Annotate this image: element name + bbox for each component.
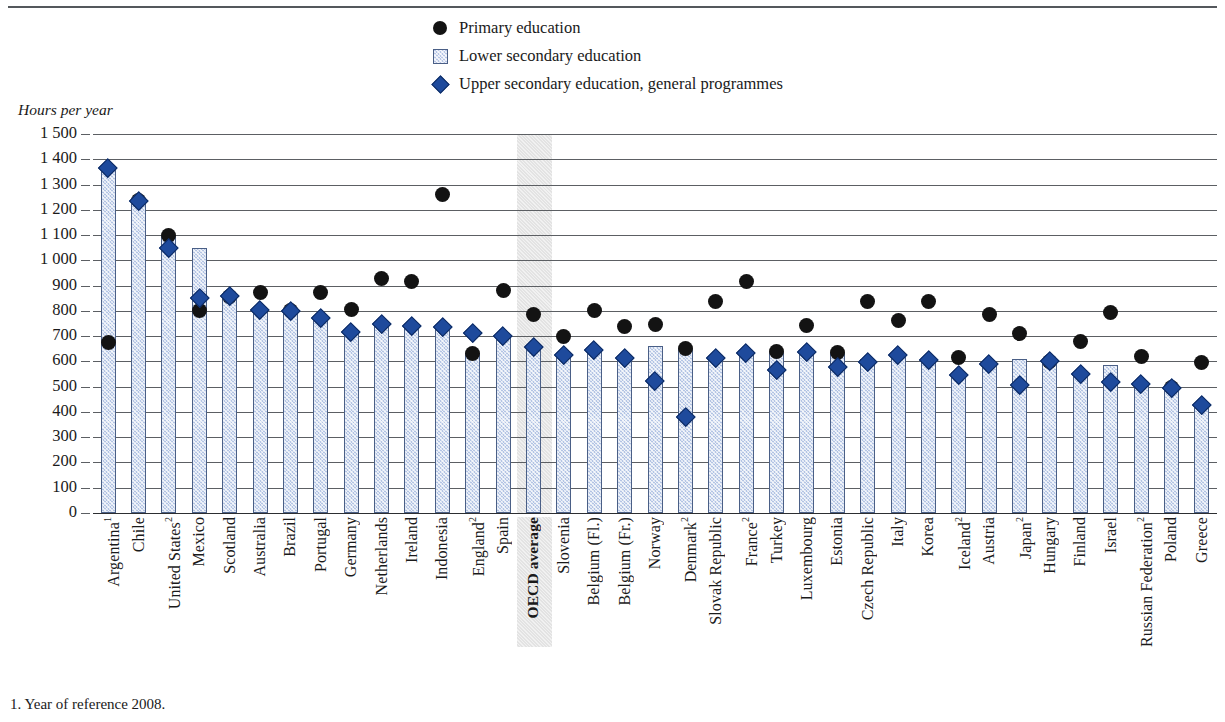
x-axis-label: Netherlands <box>374 517 390 595</box>
primary-education-point <box>435 187 450 202</box>
primary-education-point <box>860 294 875 309</box>
legend-item-upper-secondary: Upper secondary education, general progr… <box>430 74 783 94</box>
primary-education-point <box>313 285 328 300</box>
y-tick-mark <box>81 185 90 186</box>
bar <box>344 332 359 513</box>
y-tick-label: 600 <box>7 350 77 370</box>
x-axis-label: Czech Republic <box>860 517 876 620</box>
y-tick-label: 100 <box>7 477 77 497</box>
bar <box>496 336 511 513</box>
footnote: 1. Year of reference 2008. <box>10 696 165 713</box>
bar <box>313 316 328 513</box>
y-axis-title: Hours per year <box>18 101 113 119</box>
primary-education-point <box>253 285 268 300</box>
y-tick-mark <box>81 311 90 312</box>
y-tick-mark <box>81 210 90 211</box>
x-axis-label: Mexico <box>191 517 207 566</box>
x-axis-label: Belgium (Fl.) <box>586 517 602 605</box>
gridline-1400 <box>93 159 1217 160</box>
x-axis-label: Germany <box>343 517 359 577</box>
legend-item-lower-secondary: Lower secondary education <box>430 46 783 66</box>
primary-education-point <box>1134 349 1149 364</box>
y-tick-label: 700 <box>7 325 77 345</box>
y-tick-label: 800 <box>7 300 77 320</box>
x-axis-label: Belgium (Fr.) <box>617 517 633 605</box>
x-axis-label: England2 <box>465 517 487 576</box>
x-axis-label: Slovenia <box>556 517 572 574</box>
y-tick-label: 900 <box>7 275 77 295</box>
x-axis-label: Finland <box>1072 517 1088 567</box>
primary-education-point <box>404 274 419 289</box>
primary-education-point <box>617 319 632 334</box>
y-tick-mark <box>81 513 90 514</box>
bar <box>1073 373 1088 513</box>
bar <box>131 201 146 513</box>
primary-education-point <box>1012 326 1027 341</box>
x-axis-label: Scotland <box>222 517 238 574</box>
gridline-1000 <box>93 260 1217 261</box>
x-axis-label: Poland <box>1163 517 1179 562</box>
primary-education-point <box>921 294 936 309</box>
x-axis-label: Luxembourg <box>799 517 815 600</box>
bar <box>708 357 723 513</box>
bar <box>951 375 966 513</box>
gridline-1300 <box>93 185 1217 186</box>
plot-area: 1 5001 4001 3001 2001 1001 0009008007006… <box>93 134 1217 513</box>
y-tick-mark <box>81 134 90 135</box>
x-axis-label: Portugal <box>313 517 329 572</box>
bar <box>435 327 450 513</box>
y-tick-label: 200 <box>7 451 77 471</box>
chart-legend: Primary education Lower secondary educat… <box>430 18 783 94</box>
primary-education-point <box>739 274 754 289</box>
x-axis-label: Ireland <box>404 517 420 563</box>
x-axis-label: Indonesia <box>434 517 450 580</box>
y-tick-mark <box>81 387 90 388</box>
x-axis-label: OECD average <box>525 517 541 619</box>
primary-education-point <box>587 303 602 318</box>
primary-education-point <box>951 350 966 365</box>
y-tick-label: 1 300 <box>7 174 77 194</box>
primary-education-point <box>101 335 116 350</box>
x-axis-label: Brazil <box>282 517 298 557</box>
primary-education-point <box>769 344 784 359</box>
legend-item-primary: Primary education <box>430 18 783 38</box>
chart-page: Primary education Lower secondary educat… <box>0 0 1225 722</box>
bar <box>253 310 268 513</box>
bar <box>465 353 480 513</box>
y-tick-label: 1 100 <box>7 224 77 244</box>
x-axis-label: Turkey <box>769 517 785 563</box>
y-tick-label: 1 000 <box>7 249 77 269</box>
primary-education-point <box>374 271 389 286</box>
bar <box>587 350 602 513</box>
primary-education-point <box>344 302 359 317</box>
x-axis-label: Estonia <box>829 517 845 566</box>
diamond-marker-icon <box>430 78 450 91</box>
legend-label-upper-secondary: Upper secondary education, general progr… <box>459 75 783 93</box>
bar <box>404 327 419 513</box>
x-axis-label: United States2 <box>161 517 183 609</box>
primary-education-point <box>648 317 663 332</box>
x-axis-label: Russian Federation2 <box>1133 517 1155 647</box>
primary-education-point <box>556 329 571 344</box>
primary-education-point <box>708 294 723 309</box>
x-axis-label: Argentina1 <box>100 517 122 587</box>
y-tick-label: 1 400 <box>7 148 77 168</box>
gridline-1100 <box>93 235 1217 236</box>
top-divider <box>8 6 1217 8</box>
x-axis-label: Italy <box>890 517 906 547</box>
gridline-0 <box>93 513 1217 514</box>
x-axis-label: Denmark2 <box>677 517 699 582</box>
bar <box>1042 361 1057 513</box>
bar <box>799 352 814 513</box>
bar <box>678 349 693 513</box>
bar <box>1134 384 1149 513</box>
primary-education-point <box>982 307 997 322</box>
x-axis-label: Austria <box>981 517 997 565</box>
legend-label-primary: Primary education <box>459 19 580 37</box>
bar <box>891 357 906 513</box>
square-marker-icon <box>430 49 450 64</box>
y-tick-mark <box>81 361 90 362</box>
bar <box>739 355 754 513</box>
y-tick-mark <box>81 437 90 438</box>
bar <box>556 354 571 513</box>
